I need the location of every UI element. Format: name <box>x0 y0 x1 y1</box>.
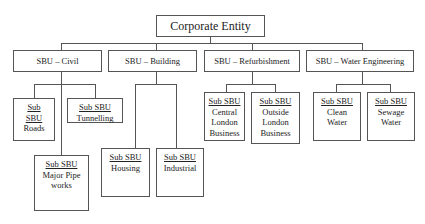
sub-sbu-name: Tunnelling <box>76 113 113 124</box>
sub-sbu-tunnelling-box: Sub SBU Tunnelling <box>67 98 123 123</box>
connector-sbu-bus <box>61 43 363 44</box>
sbu-refurbishment-box: SBU – Refurbishment <box>204 50 300 72</box>
sbu-water-engineering-label: SBU – Water Engineering <box>316 56 405 67</box>
sub-sbu-title: Sub SBU <box>321 96 353 107</box>
connector-tunnelling <box>95 84 96 98</box>
connector-building-up <box>156 43 157 50</box>
sub-sbu-title: Sub SBU <box>209 96 241 107</box>
sub-sbu-name: Roads <box>23 123 44 134</box>
sub-sbu-central-london-box: Sub SBU Central London Business <box>204 92 245 141</box>
corporate-entity-label: Corporate Entity <box>170 21 250 32</box>
connector-water-bus <box>336 84 391 85</box>
sbu-civil-label: SBU – Civil <box>36 56 78 67</box>
sub-sbu-title: Sub SBU <box>110 152 142 163</box>
connector-civil-bus <box>34 84 96 85</box>
sub-sbu-major-pipe-works-box: Sub SBU Major Pipe works <box>34 155 89 211</box>
connector-industrial <box>176 84 177 148</box>
connector-building-down <box>156 71 157 84</box>
sub-sbu-name: Housing <box>111 163 140 174</box>
sub-sbu-name: Business <box>260 128 290 139</box>
sub-sbu-title: SBU <box>26 113 43 124</box>
sub-sbu-housing-box: Sub SBU Housing <box>101 148 150 197</box>
sub-sbu-name: Water <box>327 117 347 128</box>
sub-sbu-industrial-box: Sub SBU Industrial <box>156 148 204 197</box>
sbu-refurbishment-label: SBU – Refurbishment <box>214 56 290 67</box>
sub-sbu-clean-water-box: Sub SBU Clean Water <box>313 92 361 141</box>
corporate-entity-box: Corporate Entity <box>156 15 265 37</box>
connector-refurb-down <box>252 71 253 84</box>
sub-sbu-outside-london-box: Sub SBU Outside London Business <box>251 92 300 144</box>
sub-sbu-title: Sub SBU <box>375 96 407 107</box>
sub-sbu-name: Central <box>212 107 237 118</box>
sub-sbu-name: Clean <box>327 107 347 118</box>
sub-sbu-title: Sub <box>27 102 40 113</box>
sub-sbu-name: Business <box>209 128 239 139</box>
sub-sbu-roads-box: Sub SBU Roads <box>13 98 55 141</box>
sub-sbu-name: works <box>51 180 72 191</box>
sub-sbu-name: Major Pipe <box>42 170 80 181</box>
connector-housing <box>135 84 136 148</box>
sbu-civil-box: SBU – Civil <box>13 50 102 72</box>
sub-sbu-name: London <box>262 117 288 128</box>
connector-sewage <box>390 84 391 92</box>
sub-sbu-sewage-water-box: Sub SBU Sewage Water <box>367 92 415 141</box>
sub-sbu-title: Sub SBU <box>46 159 78 170</box>
connector-roads <box>34 84 35 98</box>
connector-root-down <box>210 36 211 43</box>
connector-refurb-up <box>252 43 253 50</box>
connector-refurb-bus <box>226 84 276 85</box>
sbu-building-label: SBU – Building <box>125 56 180 67</box>
sub-sbu-name: Water <box>381 117 401 128</box>
sub-sbu-name: Industrial <box>164 163 197 174</box>
connector-outside <box>275 84 276 92</box>
connector-central <box>226 84 227 92</box>
sbu-water-engineering-box: SBU – Water Engineering <box>306 50 414 72</box>
connector-building-bus <box>135 84 177 85</box>
sub-sbu-name: Sewage <box>378 107 404 118</box>
sub-sbu-name: London <box>211 117 237 128</box>
connector-civil-up <box>61 43 62 50</box>
sub-sbu-title: Sub SBU <box>164 152 196 163</box>
connector-water-down <box>362 71 363 84</box>
sub-sbu-title: Sub SBU <box>260 96 292 107</box>
connector-clean <box>336 84 337 92</box>
sub-sbu-name: Outside <box>262 107 288 118</box>
sbu-building-box: SBU – Building <box>108 50 197 72</box>
connector-water-up <box>362 43 363 50</box>
sub-sbu-title: Sub SBU <box>79 102 111 113</box>
